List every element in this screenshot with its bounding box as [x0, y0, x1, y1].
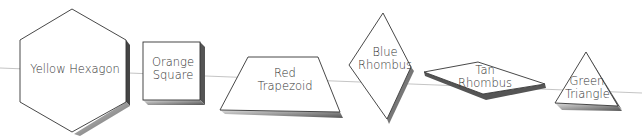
blue-rhombus-label: Blue Rhombus — [355, 46, 415, 72]
label-line: Rhombus — [355, 59, 415, 72]
red-trapezoid-label: Red Trapezoid — [255, 67, 315, 93]
label-line: Rhombus — [455, 77, 515, 90]
orange-square-label: Orange Square — [145, 56, 201, 82]
label-line: Trapezoid — [255, 80, 315, 93]
label-line: Triangle — [565, 88, 609, 101]
yellow-hexagon-label: Yellow Hexagon — [30, 63, 120, 76]
label-line: Yellow Hexagon — [30, 63, 120, 76]
label-line: Square — [145, 69, 201, 82]
tan-rhombus-label: Tan Rhombus — [455, 64, 515, 90]
green-triangle-label: Green Triangle — [565, 75, 609, 101]
